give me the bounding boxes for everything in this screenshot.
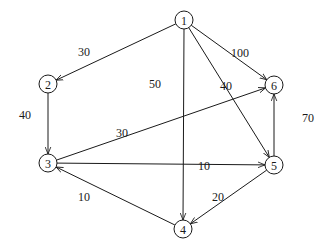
edge-weight-3-6: 30: [116, 126, 128, 140]
edge-weight-1-5: 40: [220, 79, 232, 93]
node-4: 4: [174, 220, 192, 238]
edge-weight-3-5: 10: [198, 159, 210, 173]
node-label: 3: [45, 157, 51, 171]
node-label: 6: [271, 79, 277, 93]
node-label: 4: [180, 223, 186, 237]
edge-weight-4-3: 10: [78, 190, 90, 204]
edge-3-to-6-arrow-icon: [57, 88, 266, 160]
edge-weight-5-6: 70: [302, 111, 314, 125]
edge-weight-2-3: 40: [19, 108, 31, 122]
edge-1-to-4-arrow-icon: [183, 29, 184, 220]
node-label: 2: [45, 78, 51, 92]
edge-5-to-4-arrow-icon: [190, 170, 266, 224]
edge-weights-layer: 305040100403010102070: [19, 45, 314, 204]
directed-graph: 305040100403010102070 123456: [0, 0, 330, 252]
edge-weight-5-4: 20: [212, 190, 224, 204]
node-label: 1: [181, 14, 187, 28]
edge-weight-1-4: 50: [149, 77, 161, 91]
node-5: 5: [265, 156, 283, 174]
edge-4-to-3-arrow-icon: [56, 167, 175, 225]
edge-weight-1-2: 30: [78, 45, 90, 59]
edge-1-to-2-arrow-icon: [56, 24, 176, 80]
edge-1-to-6-arrow-icon: [191, 25, 266, 79]
node-label: 5: [271, 159, 277, 173]
edge-weight-1-6: 100: [231, 46, 249, 60]
node-2: 2: [39, 75, 57, 93]
node-3: 3: [39, 154, 57, 172]
node-1: 1: [175, 11, 193, 29]
node-6: 6: [265, 76, 283, 94]
edge-3-to-5-arrow-icon: [57, 163, 265, 165]
